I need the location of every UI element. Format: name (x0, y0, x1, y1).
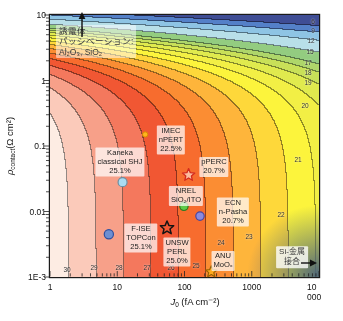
contour-label-29: 29 (90, 264, 97, 271)
x-tick-label-2: 100 (177, 282, 191, 292)
contour-label-9: 9 (311, 27, 315, 34)
contour-label-17: 17 (304, 59, 311, 66)
y-axis-subscript: contact (9, 149, 16, 170)
contour-label-18: 18 (304, 69, 311, 76)
x-axis-title: J0 (fA cm⁻²) (170, 296, 219, 308)
label-f-ise-topcon: F-ISETOPCon25.1% (124, 224, 157, 253)
x-tick-label-1: 10 (113, 282, 122, 292)
contour-label-15: 15 (306, 48, 313, 55)
x-tick-label-0: 1 (48, 282, 53, 292)
label-anu-moox: ANUMoOₓ (212, 251, 235, 271)
contour-label-22: 22 (277, 211, 284, 218)
contour-label-19: 19 (304, 79, 311, 86)
contour-label-20: 20 (301, 102, 308, 109)
x-tick-label-4: 10 000 (307, 282, 331, 302)
x-axis-units: (fA cm⁻²) (179, 296, 220, 307)
annotation-dielectric-passivation: 誘電体パッシベーション:Al₂O₃, SiO₂ (56, 25, 136, 58)
solar-contact-efficiency-contour-figure: J0 (fA cm⁻²) ρcontact(Ω cm²) 1010.10.011… (0, 0, 343, 321)
y-tick-label-1E-3: 1E-3 (2, 272, 46, 282)
contour-label-23: 23 (245, 233, 252, 240)
x-tick-label-3: 1000 (242, 282, 261, 292)
contour-label-12: 12 (307, 37, 314, 44)
label-unsw-perl: UNSWPERL25.0% (163, 238, 190, 267)
contour-label-21: 21 (294, 156, 301, 163)
contour-label-6: 6 (311, 18, 315, 25)
annotation-si-metal-contact: Si-金属接合 (276, 246, 308, 268)
y-axis-symbol: ρ (4, 170, 15, 175)
contour-label-25: 25 (192, 262, 199, 269)
y-tick-label-0.01: 0.01 (2, 207, 46, 217)
label-nrel-sio2-ito: NRELSiO₂/ITO (169, 186, 203, 206)
contour-label-24: 24 (217, 239, 224, 246)
label-imec-npert: IMECnPERT22.5% (157, 126, 185, 155)
contour-label-27: 27 (143, 264, 150, 271)
label-pperc: pPERC20.7% (199, 157, 228, 177)
label-kaneka-classical-shj: Kanekaclassical SHJ25.1% (95, 148, 144, 177)
y-tick-label-1: 1 (2, 76, 46, 86)
y-tick-label-0.1: 0.1 (2, 141, 46, 151)
y-tick-label-10: 10 (2, 10, 46, 20)
label-ecn-n-pasha: ECNn-Pasha20.7% (217, 198, 249, 227)
contour-label-30: 30 (63, 266, 70, 273)
contour-label-28: 28 (115, 264, 122, 271)
